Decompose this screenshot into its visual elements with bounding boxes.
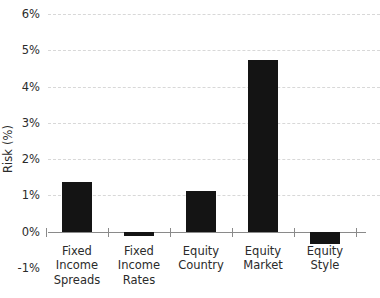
axis-tick xyxy=(108,228,109,237)
x-tick-label: Equity Market xyxy=(230,244,296,273)
y-tick-label: 3% xyxy=(0,116,40,130)
y-tick-label: 2% xyxy=(0,152,40,166)
x-tick-label: Fixed Income Rates xyxy=(106,244,172,288)
risk-bar-chart: Risk (%) 6%5%4%3%2%1%0%-1% Fixed Income … xyxy=(0,0,380,298)
axis-tick xyxy=(294,228,295,237)
bar xyxy=(124,232,154,237)
y-tick-label: 0% xyxy=(0,225,40,239)
x-tick-label: Equity Style xyxy=(292,244,358,273)
axis-tick xyxy=(232,228,233,237)
y-tick-label: -1% xyxy=(0,261,40,275)
y-tick-label: 1% xyxy=(0,188,40,202)
bar xyxy=(186,191,216,232)
plot-area: 6%5%4%3%2%1%0%-1% Fixed Income SpreadsFi… xyxy=(48,0,380,298)
y-tick-label: 5% xyxy=(0,43,40,57)
bar xyxy=(248,60,278,231)
axis-tick xyxy=(46,228,47,237)
x-tick-label: Equity Country xyxy=(168,244,234,273)
y-tick-label: 4% xyxy=(0,80,40,94)
y-tick-label: 6% xyxy=(0,7,40,21)
axis-tick xyxy=(170,228,171,237)
bar xyxy=(310,232,340,244)
x-tick-label: Fixed Income Spreads xyxy=(44,244,110,288)
axis-tick xyxy=(356,228,357,237)
bar xyxy=(62,182,92,232)
